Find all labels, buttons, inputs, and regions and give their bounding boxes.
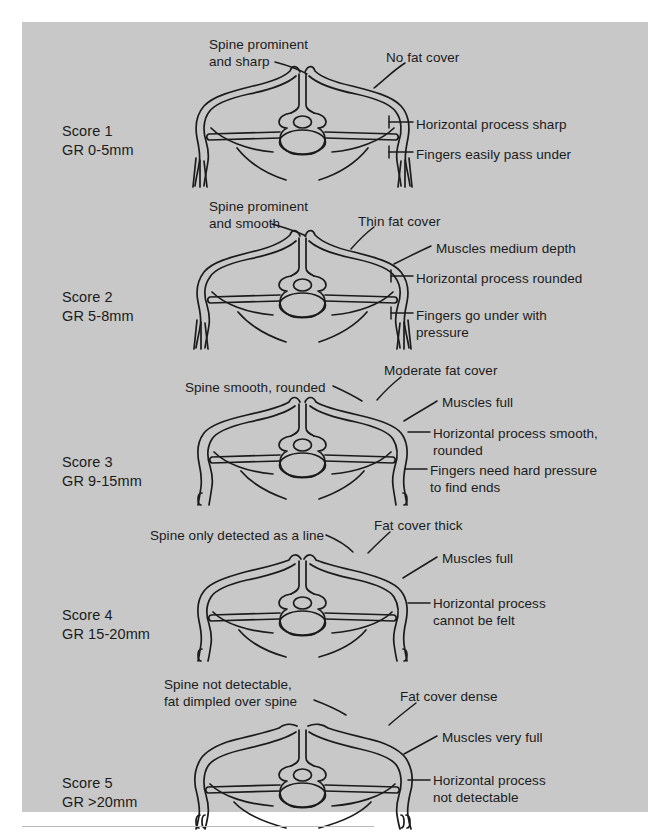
score-4-cross-section xyxy=(187,536,427,661)
score-1-cross-section xyxy=(187,62,427,187)
score-block-3: Score 3 GR 9-15mm Spine smooth, rounded … xyxy=(22,352,648,507)
score-3-cross-section xyxy=(187,380,427,505)
score-5-cross-section xyxy=(187,704,427,829)
score-block-5: Score 5 GR >20mm Spine not detectable, f… xyxy=(22,652,648,812)
score-block-4: Score 4 GR 15-20mm Spine only detected a… xyxy=(22,502,648,657)
score-block-2: Score 2 GR 5-8mm Spine prominent and smo… xyxy=(22,180,648,340)
score-2-cross-section xyxy=(187,224,427,349)
bottom-divider xyxy=(22,826,374,827)
figure-page: Score 1 GR 0-5mm Spine prominent and sha… xyxy=(0,0,662,838)
score-block-1: Score 1 GR 0-5mm Spine prominent and sha… xyxy=(22,22,648,182)
figure-panel: Score 1 GR 0-5mm Spine prominent and sha… xyxy=(22,22,648,812)
